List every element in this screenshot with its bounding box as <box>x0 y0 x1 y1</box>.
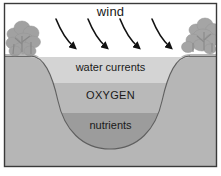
layer-label-nutrients: nutrients <box>0 119 221 131</box>
diagram-canvas <box>0 0 221 176</box>
diagram-figure: wind water currents OXYGEN nutrients <box>0 0 221 176</box>
framed-scene <box>0 4 221 166</box>
wind-label: wind <box>0 4 221 19</box>
layer-label-oxygen: OXYGEN <box>0 89 221 101</box>
layer-label-water-currents: water currents <box>0 61 221 73</box>
